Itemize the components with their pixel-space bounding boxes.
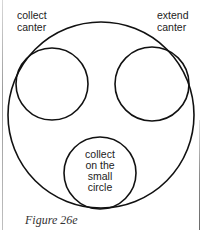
- label-bottom-line-4: circle: [88, 181, 113, 193]
- label-right-line-2: canter: [157, 21, 187, 33]
- small-circle-right: [115, 47, 189, 121]
- figure-page: collect canter extend canter collect on …: [0, 0, 206, 230]
- label-left-line-1: collect: [17, 9, 47, 21]
- figure-caption: Figure 26e: [25, 213, 78, 228]
- label-right-line-1: extend: [157, 9, 189, 21]
- small-circle-left: [16, 48, 88, 120]
- label-left-line-2: canter: [17, 21, 47, 33]
- circles-diagram: collect canter extend canter collect on …: [0, 0, 206, 230]
